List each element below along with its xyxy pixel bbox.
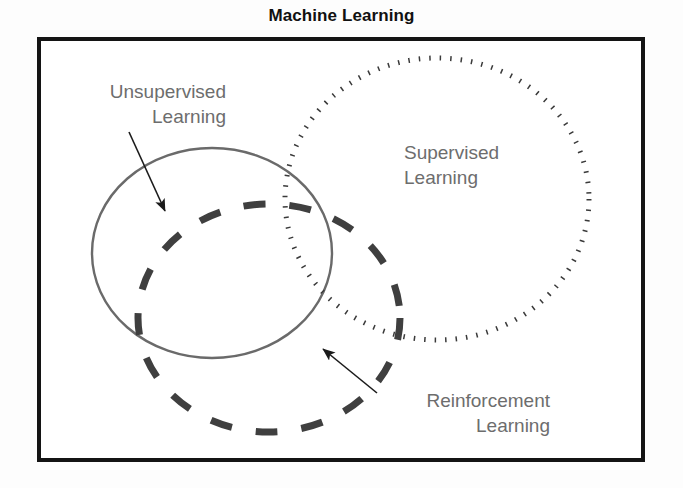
machine-learning-venn-figure: Machine Learning Unsupervised Learning S… (0, 0, 683, 488)
circle-unsupervised (92, 148, 332, 358)
circle-supervised (285, 58, 589, 340)
label-reinforcement-learning: Reinforcement Learning (370, 388, 550, 438)
label-unsupervised-learning: Unsupervised Learning (44, 79, 226, 129)
label-supervised-learning: Supervised Learning (404, 140, 594, 190)
circle-reinforcement (138, 204, 400, 432)
venn-diagram-canvas (0, 0, 683, 488)
arrow-reinforcement (323, 349, 377, 393)
